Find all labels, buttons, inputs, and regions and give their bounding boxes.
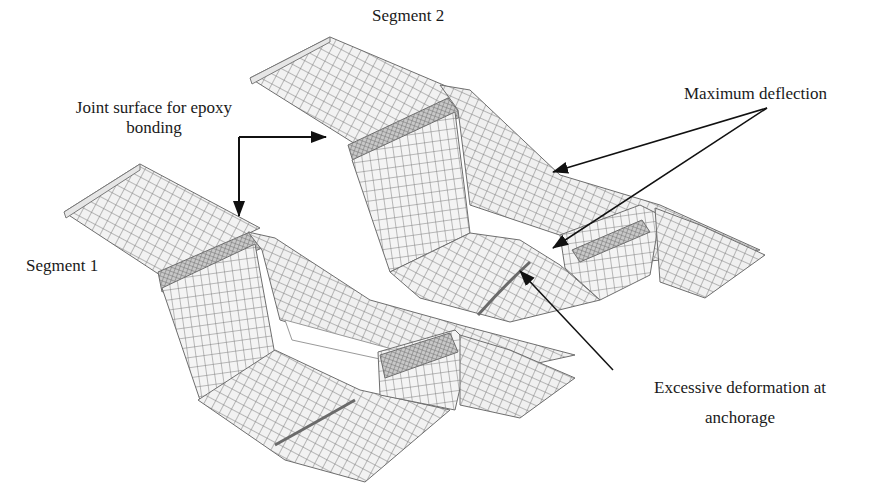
joint-surface-label-line1: Joint surface for epoxy bbox=[56, 98, 252, 118]
segment-1-label-text: Segment 1 bbox=[26, 256, 98, 276]
segment-2-right-flange bbox=[655, 208, 765, 298]
max-deflection-label: Maximum deflection bbox=[684, 84, 827, 104]
joint-surface-label-line2: bonding bbox=[56, 118, 252, 138]
excessive-deformation-label-line1: Excessive deformation at bbox=[628, 378, 852, 398]
excessive-deformation-label-line2: anchorage bbox=[628, 408, 852, 428]
max-deflection-arrow-top bbox=[553, 108, 767, 172]
excessive-deformation-label: Excessive deformation at anchorage bbox=[628, 378, 852, 428]
segment-2-label-text: Segment 2 bbox=[372, 6, 444, 26]
segment-2-label: Segment 2 bbox=[372, 6, 444, 26]
joint-surface-label: Joint surface for epoxy bonding bbox=[56, 98, 252, 138]
segment-1-label: Segment 1 bbox=[26, 256, 98, 276]
max-deflection-label-text: Maximum deflection bbox=[684, 84, 827, 104]
joint-surface-arrow bbox=[239, 137, 326, 216]
